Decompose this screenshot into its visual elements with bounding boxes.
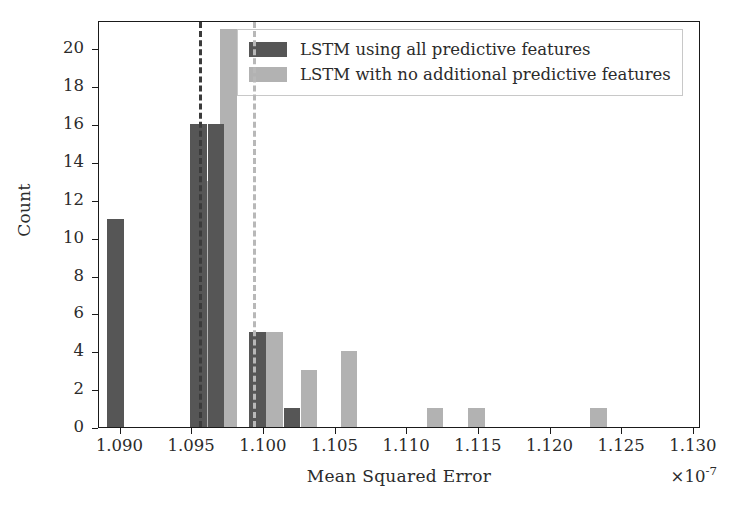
y-axis-tick — [92, 314, 98, 315]
x-axis-tick — [335, 428, 336, 434]
histogram-figure: Count Mean Squared Error ×10-7 LSTM usin… — [0, 0, 739, 511]
legend-item: LSTM using all predictive features — [249, 37, 671, 62]
histogram-bar — [341, 351, 357, 427]
x-axis-tick — [120, 428, 121, 434]
x-axis-tick — [621, 428, 622, 434]
y-axis-tick-label: 6 — [22, 303, 84, 322]
y-axis-tick-label: 10 — [22, 228, 84, 247]
x-axis-tick — [191, 428, 192, 434]
x-axis-tick — [406, 428, 407, 434]
y-axis-tick — [92, 428, 98, 429]
legend: LSTM using all predictive features LSTM … — [237, 29, 683, 96]
legend-item: LSTM with no additional predictive featu… — [249, 62, 671, 87]
y-axis-tick-label: 8 — [22, 266, 84, 285]
x-axis-multiplier: ×10-7 — [671, 464, 717, 486]
y-axis-tick — [92, 87, 98, 88]
histogram-bar — [107, 219, 123, 427]
histogram-bar — [266, 332, 282, 427]
histogram-bar — [468, 408, 484, 427]
y-axis-tick — [92, 390, 98, 391]
y-axis-tick-label: 18 — [22, 76, 84, 95]
y-axis-tick-label: 0 — [22, 417, 84, 436]
legend-label: LSTM with no additional predictive featu… — [300, 65, 671, 84]
y-axis-tick-label: 20 — [22, 38, 84, 57]
y-axis-tick-label: 4 — [22, 341, 84, 360]
x-axis-label: Mean Squared Error — [98, 466, 700, 486]
x-axis-tick-label: 1.130 — [648, 436, 738, 455]
y-axis-tick — [92, 163, 98, 164]
histogram-bar — [427, 408, 443, 427]
legend-label: LSTM using all predictive features — [300, 40, 590, 59]
y-axis-tick — [92, 239, 98, 240]
vertical-dashed-line-mean-no-additional-features — [253, 22, 256, 427]
x-axis-multiplier-base: ×10 — [671, 467, 706, 486]
histogram-bar — [590, 408, 606, 427]
x-axis-tick — [550, 428, 551, 434]
y-axis-tick-label: 12 — [22, 190, 84, 209]
y-axis-tick-label: 2 — [22, 379, 84, 398]
x-axis-tick — [263, 428, 264, 434]
y-axis-tick — [92, 277, 98, 278]
x-axis-multiplier-exponent: -7 — [705, 464, 717, 478]
histogram-bar — [284, 408, 300, 427]
y-axis-tick — [92, 352, 98, 353]
histogram-bar — [249, 332, 265, 427]
y-axis-tick — [92, 49, 98, 50]
histogram-bar — [301, 370, 317, 427]
x-axis-tick — [478, 428, 479, 434]
y-axis-tick — [92, 201, 98, 202]
x-axis-tick — [693, 428, 694, 434]
y-axis-tick — [92, 125, 98, 126]
y-axis-tick-label: 16 — [22, 114, 84, 133]
vertical-dashed-line-mean-all-features — [199, 22, 202, 427]
y-axis-tick-label: 14 — [22, 152, 84, 171]
histogram-bar — [208, 124, 224, 427]
